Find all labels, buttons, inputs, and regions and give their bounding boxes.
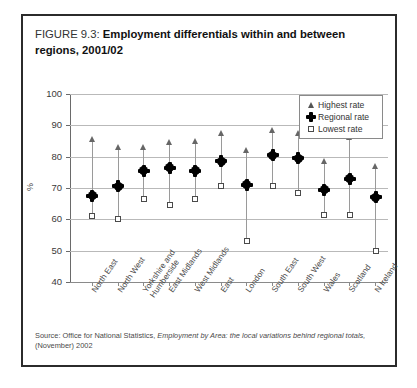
source-title: Employment by Area: the local variations… bbox=[157, 331, 365, 340]
lowest-rate-marker bbox=[167, 202, 173, 208]
highest-rate-marker bbox=[321, 158, 327, 164]
y-axis-tick-label: 50 bbox=[38, 246, 62, 256]
range-bar bbox=[169, 144, 170, 205]
highest-rate-marker bbox=[269, 127, 275, 133]
highest-rate-marker bbox=[243, 147, 249, 153]
highest-rate-marker bbox=[115, 144, 121, 150]
legend-label-highest: Highest rate bbox=[318, 100, 364, 110]
regional-rate-marker bbox=[217, 157, 226, 166]
source-suffix: (November) 2002 bbox=[35, 341, 93, 350]
regional-rate-marker bbox=[345, 174, 354, 183]
legend-item-highest: Highest rate bbox=[305, 99, 377, 111]
source-prefix: Source: Office for National Statistics, bbox=[35, 331, 157, 340]
lowest-rate-marker bbox=[373, 248, 379, 254]
highest-rate-marker bbox=[192, 138, 198, 144]
lowest-rate-marker bbox=[141, 196, 147, 202]
y-axis-tick-mark bbox=[66, 125, 70, 126]
highest-rate-marker bbox=[218, 130, 224, 136]
regional-rate-marker bbox=[371, 193, 380, 202]
range-bar bbox=[92, 141, 93, 216]
square-open-icon bbox=[305, 126, 316, 132]
x-axis-tick-label: London bbox=[244, 267, 267, 295]
lowest-rate-marker bbox=[244, 238, 250, 244]
legend-item-lowest: Lowest rate bbox=[305, 123, 377, 135]
x-axis-tick-label: Scotland bbox=[347, 263, 373, 294]
data-point-group bbox=[118, 94, 119, 282]
regional-rate-marker bbox=[88, 191, 97, 200]
highest-rate-marker bbox=[140, 144, 146, 150]
page-title: FIGURE 9.3: Employment differentials wit… bbox=[35, 26, 365, 58]
figure-frame: FIGURE 9.3: Employment differentials wit… bbox=[21, 14, 397, 367]
y-axis-tick-mark bbox=[66, 251, 70, 252]
y-axis-tick-label: 60 bbox=[38, 214, 62, 224]
regional-rate-marker bbox=[139, 166, 148, 175]
range-bar bbox=[375, 168, 376, 251]
y-axis-tick-mark bbox=[66, 94, 70, 95]
lowest-rate-marker bbox=[115, 216, 121, 222]
figure-number: FIGURE 9.3: bbox=[35, 28, 100, 40]
data-point-group bbox=[92, 94, 93, 282]
highest-rate-marker bbox=[372, 163, 378, 169]
x-axis-tick-label: N Ireland bbox=[373, 262, 399, 294]
lowest-rate-marker bbox=[295, 190, 301, 196]
data-point-group bbox=[221, 94, 222, 282]
y-axis-label: % bbox=[25, 183, 35, 191]
regional-rate-marker bbox=[294, 154, 303, 163]
range-bar bbox=[246, 152, 247, 241]
diamond-filled-icon bbox=[305, 113, 316, 121]
source-note: Source: Office for National Statistics, … bbox=[35, 331, 387, 351]
lowest-rate-marker bbox=[192, 196, 198, 202]
highest-rate-marker bbox=[166, 139, 172, 145]
lowest-rate-marker bbox=[218, 183, 224, 189]
lowest-rate-marker bbox=[347, 212, 353, 218]
y-axis-tick-mark bbox=[66, 188, 70, 189]
regional-rate-marker bbox=[191, 166, 200, 175]
y-axis-tick-label: 90 bbox=[38, 120, 62, 130]
y-axis-tick-mark bbox=[66, 157, 70, 158]
y-axis-tick-label: 100 bbox=[38, 89, 62, 99]
data-point-group bbox=[143, 94, 144, 282]
chart-legend: Highest rate Regional rate Lowest rate bbox=[299, 95, 383, 139]
legend-label-regional: Regional rate bbox=[318, 112, 369, 122]
legend-label-lowest: Lowest rate bbox=[318, 124, 362, 134]
triangle-up-icon bbox=[305, 102, 316, 108]
lowest-rate-marker bbox=[321, 212, 327, 218]
regional-rate-marker bbox=[268, 151, 277, 160]
y-axis-tick-mark bbox=[66, 219, 70, 220]
y-axis-tick-label: 70 bbox=[38, 183, 62, 193]
data-point-group bbox=[246, 94, 247, 282]
data-point-group bbox=[272, 94, 273, 282]
y-axis-tick-label: 40 bbox=[38, 277, 62, 287]
y-axis-tick-mark bbox=[66, 282, 70, 283]
y-axis-tick-label: 80 bbox=[38, 152, 62, 162]
highest-rate-marker bbox=[89, 136, 95, 142]
lowest-rate-marker bbox=[89, 213, 95, 219]
legend-item-regional: Regional rate bbox=[305, 111, 377, 123]
data-point-group bbox=[195, 94, 196, 282]
regional-rate-marker bbox=[165, 163, 174, 172]
data-point-group bbox=[169, 94, 170, 282]
regional-rate-marker bbox=[320, 185, 329, 194]
regional-rate-marker bbox=[114, 182, 123, 191]
lowest-rate-marker bbox=[270, 183, 276, 189]
